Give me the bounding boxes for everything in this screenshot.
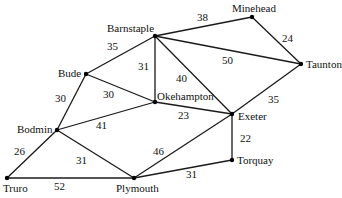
edge-weight-barnstaple-exeter: 40: [176, 72, 188, 84]
edge-weight-bude-okehampton: 30: [103, 88, 115, 100]
edge-weight-minehead-taunton: 24: [282, 32, 294, 44]
node-truro: [5, 176, 9, 180]
node-label-bodmin: Bodmin: [17, 123, 53, 135]
edge-weight-barnstaple-bude: 35: [107, 40, 119, 52]
edge-bodmin-plymouth: [57, 130, 134, 178]
edge-weight-barnstaple-okehampton: 31: [138, 60, 149, 72]
node-label-truro: Truro: [3, 182, 28, 194]
network-graph: 3824503531403530302341263152462231 Barns…: [0, 0, 342, 198]
edge-weight-bodmin-okehampton: 41: [96, 119, 107, 131]
edge-bude-okehampton: [86, 74, 155, 102]
node-label-plymouth: Plymouth: [116, 182, 159, 194]
node-plymouth: [132, 176, 136, 180]
node-label-barnstaple: Barnstaple: [107, 22, 154, 34]
edge-weight-bodmin-plymouth: 31: [76, 154, 87, 166]
node-exeter: [230, 112, 234, 116]
node-taunton: [299, 62, 303, 66]
edge-taunton-exeter: [232, 64, 301, 114]
node-minehead: [250, 15, 254, 19]
node-label-torquay: Torquay: [237, 154, 274, 166]
edge-weight-taunton-exeter: 35: [268, 93, 280, 105]
edge-weight-bude-bodmin: 30: [55, 92, 67, 104]
node-torquay: [230, 158, 234, 162]
node-label-exeter: Exeter: [238, 110, 267, 122]
edge-weight-okehampton-exeter: 23: [178, 109, 190, 121]
edge-minehead-taunton: [252, 17, 301, 64]
edge-weight-exeter-torquay: 22: [240, 132, 251, 144]
node-label-minehead: Minehead: [232, 2, 276, 14]
node-label-okehampton: Okehampton: [157, 90, 214, 102]
edge-okehampton-exeter: [155, 102, 232, 114]
edge-weight-truro-plymouth: 52: [54, 180, 65, 192]
edge-weight-plymouth-torquay: 31: [186, 168, 197, 180]
edge-weight-barnstaple-taunton: 50: [222, 54, 234, 66]
edge-weight-barnstaple-minehead: 38: [197, 11, 209, 23]
node-bude: [84, 72, 88, 76]
node-barnstaple: [153, 34, 157, 38]
node-bodmin: [55, 128, 59, 132]
node-label-bude: Bude: [58, 67, 81, 79]
node-label-taunton: Taunton: [306, 58, 342, 70]
node-labels-layer: BarnstapleMineheadTauntonBudeOkehamptonE…: [3, 2, 342, 194]
edge-barnstaple-exeter: [155, 36, 232, 114]
edge-weight-plymouth-exeter: 46: [153, 145, 165, 157]
edge-weight-bodmin-truro: 26: [14, 145, 26, 157]
